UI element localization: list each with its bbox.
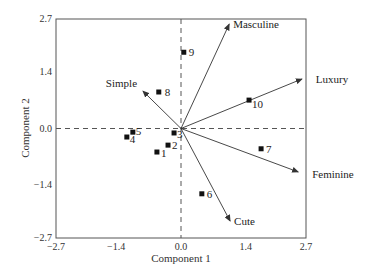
vector-masculine (181, 24, 229, 128)
vector-label: Masculine (233, 18, 279, 30)
vector-label: Feminine (312, 168, 354, 180)
point-label: 6 (207, 188, 213, 200)
data-point (124, 135, 129, 140)
y-tick-label: 2.7 (40, 13, 53, 24)
data-point (156, 90, 161, 95)
y-axis-label: Component 2 (19, 98, 31, 158)
data-point (247, 98, 252, 103)
vector-simple (143, 91, 181, 128)
data-point (130, 130, 135, 135)
vector-label: Simple (106, 77, 137, 89)
point-label: 3 (177, 128, 183, 140)
data-point (199, 191, 204, 196)
data-point (259, 146, 264, 151)
vector-feminine (181, 129, 298, 172)
loading-vectors: MasculineLuxuryFeminineCuteSimple (106, 18, 354, 227)
vector-label: Cute (234, 215, 255, 227)
point-label: 10 (252, 98, 263, 110)
x-tick-label: −1.4 (107, 241, 125, 252)
x-tick-label: 0.0 (175, 241, 188, 252)
point-label: 7 (266, 143, 272, 155)
data-point (154, 150, 159, 155)
data-points: 12345678910 (124, 46, 272, 200)
point-label: 1 (161, 147, 167, 159)
y-tick-label: 0.0 (40, 123, 53, 134)
data-point (181, 50, 186, 55)
y-tick-label: 1.4 (40, 66, 53, 77)
x-tick-label: 2.7 (300, 241, 313, 252)
y-tick-label: −2.7 (34, 232, 52, 243)
point-label: 5 (136, 125, 142, 137)
y-tick-label: −1.4 (34, 179, 52, 190)
data-point (172, 130, 177, 135)
vector-cute (181, 129, 230, 221)
x-tick-label: 1.4 (240, 241, 253, 252)
point-label: 9 (189, 46, 195, 58)
vector-luxury (181, 79, 302, 128)
point-label: 8 (165, 86, 171, 98)
point-label: 2 (172, 139, 178, 151)
x-axis-label: Component 1 (151, 252, 211, 264)
biplot-chart: −2.7−1.40.01.42.7−2.7−1.40.01.42.7 Mascu… (0, 0, 369, 278)
data-point (166, 143, 171, 148)
vector-label: Luxury (316, 73, 349, 85)
